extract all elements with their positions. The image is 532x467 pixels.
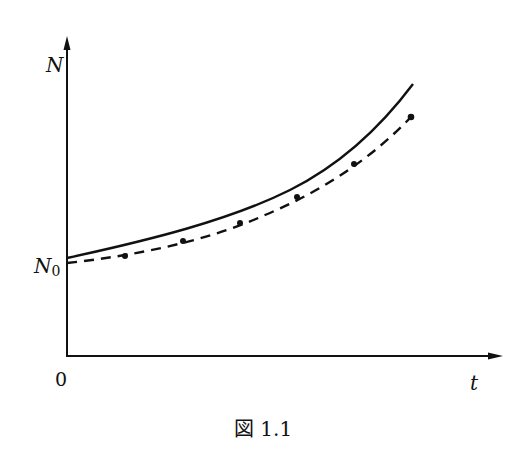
- data-point: [294, 194, 300, 200]
- n0-main: N: [33, 254, 53, 278]
- x-axis-label: t: [470, 371, 479, 395]
- solid-curve: [67, 84, 413, 258]
- x-axis-arrow-icon: [488, 353, 503, 360]
- data-point: [122, 253, 128, 259]
- data-point: [237, 220, 243, 226]
- n0-subscript: 0: [52, 263, 61, 279]
- figure-caption: 図 1.1: [234, 417, 292, 441]
- origin-label: 0: [55, 368, 67, 390]
- dashed-curve-points: [122, 114, 414, 259]
- data-point: [351, 161, 357, 167]
- y-axis-label: N: [45, 53, 65, 77]
- y-axis-arrow-icon: [64, 36, 71, 50]
- dashed-curve: [67, 117, 411, 263]
- n0-label: N0: [33, 254, 60, 279]
- chart-figure: N N0 0 t 図 1.1: [0, 0, 532, 467]
- data-point: [180, 238, 186, 244]
- data-point: [408, 114, 415, 121]
